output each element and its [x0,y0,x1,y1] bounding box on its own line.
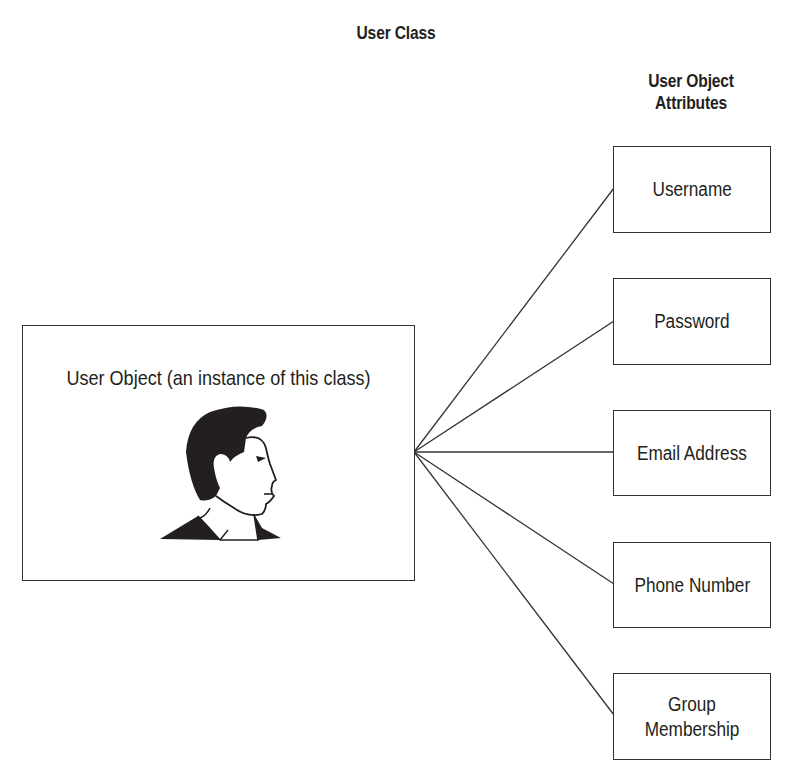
attribute-box-group-membership: Group Membership [613,673,771,760]
attribute-box-username: Username [613,146,771,233]
attribute-label: Email Address [637,441,747,466]
user-object-box: User Object (an instance of this class) [22,325,415,581]
connector-phone [414,452,614,584]
attributes-heading: User Object Attributes [609,70,773,114]
connector-password [414,321,614,452]
user-profile-icon [158,404,283,544]
attribute-box-phone-number: Phone Number [613,542,771,628]
connector-username [414,188,614,452]
attributes-heading-line1: User Object [648,70,734,91]
attribute-label: Password [654,309,730,334]
user-object-label: User Object (an instance of this class) [50,366,386,390]
attribute-label: Group Membership [645,692,740,742]
attributes-heading-line2: Attributes [655,92,727,113]
connector-group [414,452,614,715]
attribute-box-email-address: Email Address [613,410,771,496]
diagram-title: User Class [314,22,478,44]
attribute-box-password: Password [613,278,771,365]
attribute-label: Username [652,177,731,202]
attribute-label: Phone Number [634,573,750,598]
